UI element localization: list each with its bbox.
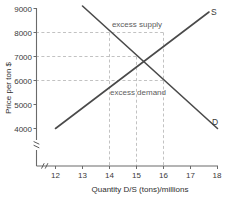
supply-curve-label: S: [211, 7, 217, 17]
y-axis-title: Price per ton $: [4, 61, 13, 114]
y-tick-labels: 9000 8000 7000 6000 5000 4000: [14, 5, 32, 134]
demand-curve-label: D: [212, 117, 218, 127]
y-tick-label-8000: 8000: [14, 29, 32, 38]
guide-lines: [36, 33, 164, 167]
y-axis-break-icon: [34, 142, 40, 148]
x-axis-title: Quantity D/S (tons)/millions: [92, 185, 189, 194]
y-tick-label-5000: 5000: [14, 101, 32, 110]
annotation-excess-supply: excess supply: [112, 20, 162, 29]
x-tick-label-15: 15: [132, 171, 141, 180]
supply-demand-chart: 9000 8000 7000 6000 5000 4000 12 13 14 1…: [0, 0, 228, 200]
x-tick-label-18: 18: [213, 171, 222, 180]
x-tick-label-14: 14: [105, 171, 114, 180]
chart-canvas: 9000 8000 7000 6000 5000 4000 12 13 14 1…: [0, 0, 228, 200]
x-tick-labels: 12 13 14 15 16 17 18: [51, 171, 222, 180]
annotation-excess-demand: excess demand: [110, 88, 166, 97]
y-tick-label-9000: 9000: [14, 5, 32, 14]
x-tick-label-13: 13: [78, 171, 87, 180]
supply-curve: [56, 12, 210, 129]
y-tick-label-7000: 7000: [14, 53, 32, 62]
x-tick-label-12: 12: [51, 171, 60, 180]
y-tick-label-6000: 6000: [14, 77, 32, 86]
x-tick-label-17: 17: [186, 171, 195, 180]
x-tick-label-16: 16: [159, 171, 168, 180]
y-tick-label-4000: 4000: [14, 125, 32, 134]
